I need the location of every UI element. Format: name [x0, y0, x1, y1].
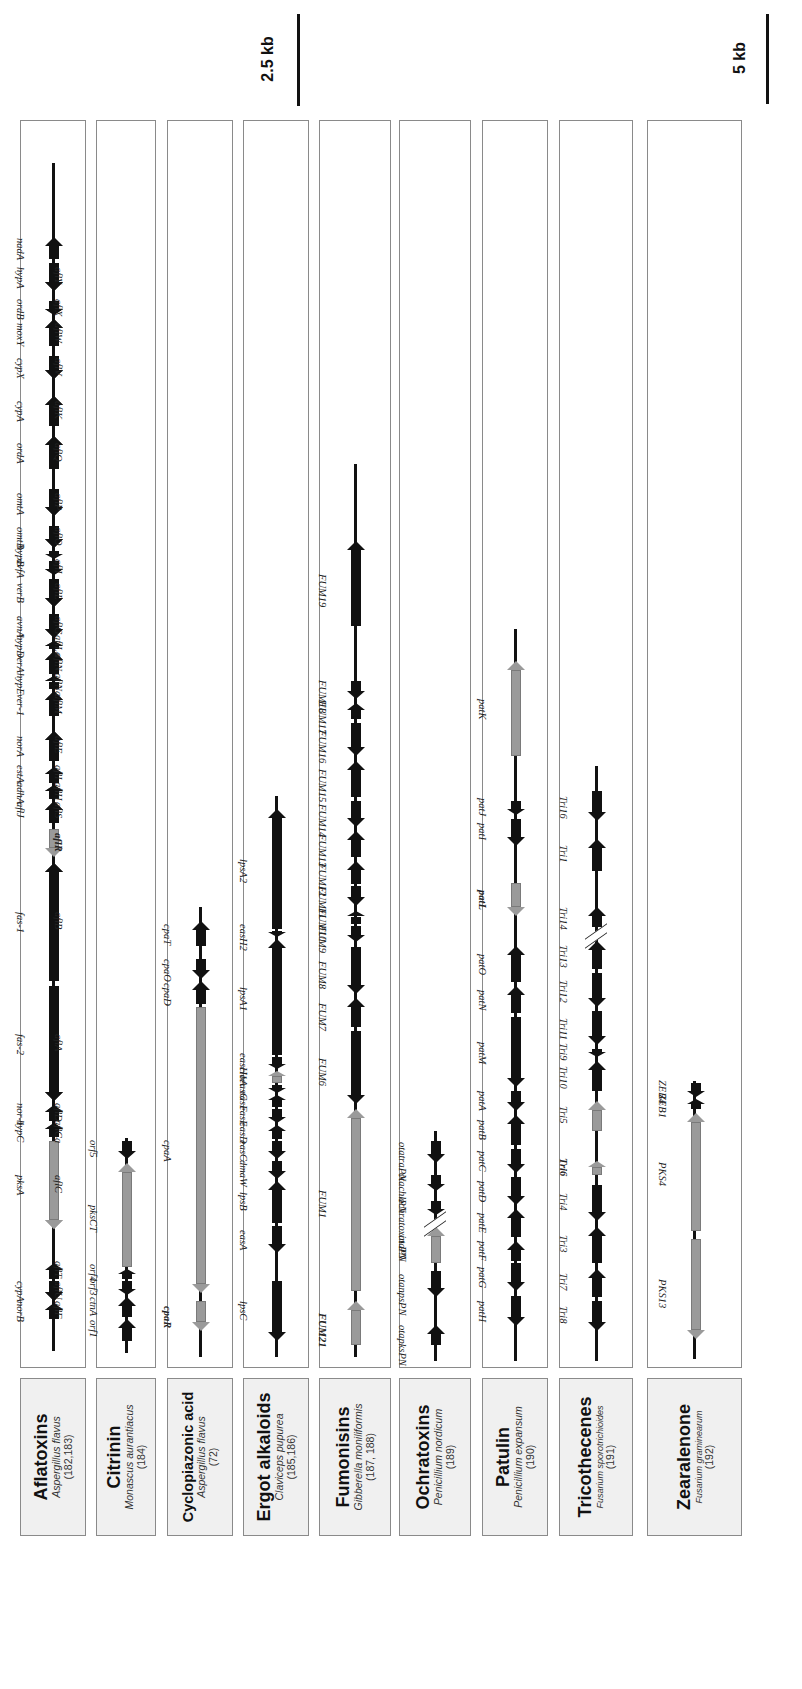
gene-label: cpaA: [162, 1140, 173, 1162]
gene-label: pksCT: [88, 1205, 99, 1232]
gene-label: Tri10: [558, 1066, 569, 1089]
gene-label: patM: [477, 1042, 488, 1064]
gene-arrow-head: [268, 1064, 286, 1069]
gene-label: otanpsPN: [397, 1274, 408, 1315]
gene-label: patJ: [477, 798, 488, 816]
gene-arrow-body: [272, 1100, 282, 1107]
gene-arrow-body: [351, 801, 361, 818]
gene-arrow-head: [118, 1269, 136, 1274]
gene-label: FUM7: [317, 1003, 328, 1031]
gene-arrow-body: [431, 1201, 441, 1209]
gene-arrow-head: [268, 939, 286, 948]
gene-label: aflQ: [53, 443, 64, 462]
gene-label: patC: [477, 1151, 488, 1171]
gene-arrow-body: [691, 1083, 701, 1091]
gene-label: hypE: [15, 673, 26, 695]
gene-label: patK: [477, 699, 488, 719]
gene-arrow-body: [431, 1334, 441, 1345]
gene-arrow-head: [347, 761, 365, 770]
gene-arrow-body: [122, 1141, 132, 1151]
gene-label: norB: [15, 1301, 26, 1322]
cluster-label-box: Cyclopiazonic acidAspergillus flavus(72): [167, 1378, 233, 1536]
gene-arrow-body: [592, 916, 602, 927]
gene-label: nor-1: [15, 1103, 26, 1126]
cluster-label-box: FumonisinsGibberella moniliformis(187, 1…: [319, 1378, 391, 1536]
gene-arrow-head: [347, 747, 365, 756]
gene-arrow-body: [351, 1007, 361, 1027]
cluster-label-box: AflatoxinsAspergillus flavus(182,183): [20, 1378, 86, 1536]
gene-arrow-head: [687, 1330, 705, 1339]
gene-arrow-body: [511, 1250, 521, 1261]
cluster-label: ZearalenoneFusarium graminearum(192): [674, 1381, 716, 1533]
gene-label: Tri3: [558, 1235, 569, 1253]
reference-numbers: (187, 188): [365, 1381, 377, 1533]
reference-numbers: (182,183): [63, 1381, 75, 1533]
gene-label: FUM6: [317, 1058, 328, 1086]
gene-arrow-body: [351, 723, 361, 747]
gene-arrow-head: [268, 1171, 286, 1179]
gene-arrow-body: [49, 246, 59, 259]
gene-arrow-head: [507, 1196, 525, 1205]
gene-arrow-body: [511, 1017, 521, 1078]
gene-arrow-head: [427, 1154, 445, 1163]
gene-arrow-body: [122, 1172, 132, 1267]
gene-arrow-head: [192, 921, 210, 930]
gene-arrow-body: [511, 1149, 521, 1164]
gene-arrow-head: [588, 1227, 606, 1236]
gene-label: FUM13: [317, 834, 328, 867]
gene-arrow-head: [687, 1113, 705, 1122]
gene-label: Tri11: [558, 1018, 569, 1040]
gene-label: hypA: [15, 267, 26, 289]
gene-arrow-head: [268, 1071, 286, 1076]
gene-arrow-head: [347, 541, 365, 550]
gene-arrow-body: [511, 883, 521, 907]
gene-arrow-body: [691, 1104, 701, 1109]
gene-label: lpsA1: [238, 987, 249, 1011]
gene-arrow-head: [45, 1092, 63, 1101]
gene-label: patN: [477, 990, 488, 1010]
gene-arrow-head: [507, 1115, 525, 1124]
gene-label: aflU: [53, 1281, 64, 1300]
scale-bar-label: 2.5 kb: [259, 29, 277, 89]
gene-arrow-head: [588, 1322, 606, 1331]
gene-arrow-body: [272, 818, 282, 929]
gene-cluster-track: PKS13PKS4ZEB1ZEB4: [647, 120, 742, 1368]
gene-label: aflY: [53, 267, 64, 284]
gene-cluster-track: lpsCeasAlpsBdmaWeasCeasDeasEeasFeasGcloA…: [243, 120, 309, 1368]
gene-arrow-body: [592, 1185, 602, 1212]
gene-label: Tri13: [558, 945, 569, 968]
gene-label: patE: [477, 1213, 488, 1233]
gene-label: FUM8: [317, 961, 328, 989]
gene-arrow-body: [196, 959, 206, 970]
cluster-label: Ergot alkaloidsClaviceps pupurea(185,186…: [254, 1381, 298, 1533]
gene-arrow-head: [268, 1151, 286, 1159]
gene-arrow-head: [45, 237, 63, 246]
gene-arrow-body: [272, 1161, 282, 1171]
scale-bar-line: [766, 14, 769, 104]
gene-label: aflC: [53, 1175, 64, 1193]
gene-label: ZEB4: [657, 1080, 668, 1104]
gene-arrow-body: [272, 1226, 282, 1244]
gene-arrow-body: [592, 1278, 602, 1297]
gene-label: aflT: [53, 1261, 64, 1278]
reference-numbers: (185,186): [286, 1381, 298, 1533]
gene-arrow-head: [118, 1163, 136, 1172]
gene-arrow-body: [592, 1011, 602, 1036]
gene-label: orf1: [88, 1320, 99, 1338]
gene-label: hypD: [15, 635, 26, 658]
gene-arrow-body: [196, 1301, 206, 1322]
gene-arrow-body: [272, 1131, 282, 1139]
gene-arrow-body: [592, 848, 602, 871]
gene-label: aflO: [53, 527, 64, 546]
toxin-name: Cyclopiazonic acid: [180, 1381, 196, 1533]
gene-label: otapksPN: [397, 1325, 408, 1366]
gene-label: aflK: [53, 401, 64, 419]
gene-arrow-body: [122, 1328, 132, 1341]
gene-arrow-body: [431, 1236, 441, 1263]
gene-label: PKS4: [657, 1162, 668, 1186]
gene-arrow-body: [351, 917, 361, 924]
gene-arrow-head: [192, 1322, 210, 1331]
gene-arrow-body: [351, 1310, 361, 1345]
toxin-name: Ochratoxins: [413, 1381, 433, 1533]
gene-cluster-track: Tri8Tri7Tri3Tri4Tri6Tri5Tri10Tri9Tri11Tr…: [559, 120, 633, 1368]
